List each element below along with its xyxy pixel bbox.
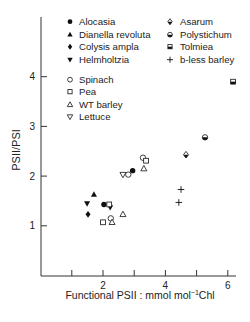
legend-label: Polystichum [180,29,232,40]
open-square-marker-icon [144,158,149,163]
x-axis-label: Functional PSII : mmol mol−1Chl [65,289,214,301]
legend-item: Colysis ampla [68,41,140,52]
x-axis-label-main: Functional PSII : mmol mol [65,289,190,301]
legend-label: Pea [79,86,97,97]
legend-item: Alocasia [68,16,116,27]
filled-triangle-down-marker-icon [67,58,72,63]
open-triangle-up-marker-icon [120,211,126,216]
y-axis-label: PSII/PSI [10,129,22,171]
y-tick-label: 3 [29,121,35,132]
half-filled-circle-marker-icon [168,32,173,37]
filled-triangle-up-marker-icon [91,191,97,196]
legend-item: Tolmiea [168,41,214,52]
legend-label: Dianella revoluta [79,29,151,40]
half-filled-diamond-marker-icon [168,19,172,25]
x-axis-label-superscript: −1 [191,289,199,296]
legend-item: Lettuce [67,111,110,122]
legend-label: Spinach [79,74,114,85]
legend-item: b-less barley [167,54,235,65]
legend-label: Colysis ampla [79,41,139,52]
filled-triangle-up-marker-icon [67,32,72,37]
legend-label: Alocasia [79,16,116,27]
half-filled-square-marker-icon [231,79,236,84]
legend-label: Lettuce [79,111,110,122]
legend-item: Asarum [168,16,213,27]
open-circle-marker-icon [68,77,73,82]
open-square-marker-icon [68,90,72,94]
legend-item: Spinach [68,74,114,85]
x-axis-label-tail: Chl [199,289,215,301]
open-triangle-up-marker-icon [141,165,147,170]
legend-item: WT barley [67,99,122,110]
open-triangle-up-marker-icon [67,102,72,107]
y-tick-label: 1 [29,220,35,231]
legend-label: Asarum [180,16,213,27]
filled-circle-marker-icon [68,19,73,24]
x-tick-label: 6 [225,280,231,291]
filled-triangle-down-marker-icon [84,201,90,206]
half-filled-diamond-marker-icon [183,151,188,158]
scatter-chart: 246 1234 PSII/PSI Functional PSII : mmol… [0,0,250,322]
legend-item: Helmholtzia [67,54,129,65]
filled-circle-marker-icon [101,202,106,207]
legend-item: Dianella revoluta [67,29,151,40]
legend-label: WT barley [79,99,123,110]
half-filled-circle-marker-icon [202,135,207,140]
y-tick-label: 4 [29,71,35,82]
y-axis-ticks: 1234 [29,71,47,231]
y-tick-label: 2 [29,171,35,182]
legend: AlocasiaDianella revolutaColysis amplaHe… [67,16,234,122]
open-triangle-down-marker-icon [120,172,126,177]
legend-label: b-less barley [180,54,235,65]
filled-diamond-marker-icon [86,211,91,218]
plus-marker-icon [178,186,185,193]
x-axis-ticks: 246 [72,270,231,291]
filled-circle-marker-icon [130,168,135,173]
legend-label: Tolmiea [180,41,214,52]
open-triangle-down-marker-icon [67,115,72,120]
legend-item: Pea [68,86,97,97]
half-filled-square-marker-icon [168,45,172,49]
plus-marker-icon [167,57,173,63]
legend-label: Helmholtzia [79,54,130,65]
open-square-marker-icon [107,202,112,207]
filled-diamond-marker-icon [68,44,72,50]
legend-item: Polystichum [168,29,232,40]
open-square-marker-icon [101,220,106,225]
plus-marker-icon [176,199,183,206]
open-circle-marker-icon [126,172,131,177]
